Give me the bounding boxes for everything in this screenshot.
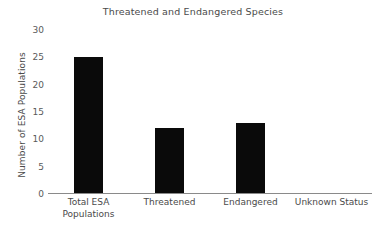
- x-axis-line: [48, 193, 372, 194]
- x-tick-label: Threatened: [129, 197, 210, 209]
- x-tick-label: Unknown Status: [291, 197, 372, 209]
- x-tick-label: Total ESA Populations: [48, 197, 129, 220]
- plot-area: [48, 30, 372, 194]
- y-tick-label: 5: [4, 162, 44, 172]
- chart-title: Threatened and Endangered Species: [0, 6, 386, 17]
- bar: [74, 57, 103, 194]
- y-tick-label: 10: [4, 134, 44, 144]
- chart-container: Threatened and Endangered Species Number…: [0, 0, 386, 234]
- y-tick-label: 25: [4, 52, 44, 62]
- bar: [155, 128, 184, 194]
- y-tick-label: 15: [4, 107, 44, 117]
- y-tick-label: 30: [4, 25, 44, 35]
- x-tick-label: Endangered: [210, 197, 291, 209]
- y-axis-tick-labels: 051015202530: [0, 30, 44, 194]
- y-tick-label: 0: [4, 189, 44, 199]
- y-tick-label: 20: [4, 80, 44, 90]
- bar: [236, 123, 265, 194]
